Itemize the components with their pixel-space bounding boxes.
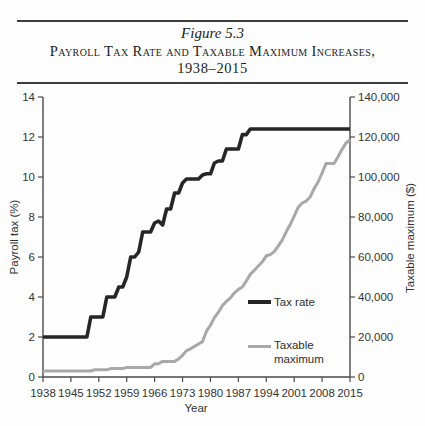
x-axis-tick-label: 1987	[226, 387, 252, 399]
left-axis-tick-label: 6	[29, 251, 35, 263]
x-axis-tick-label: 1938	[30, 387, 56, 399]
left-axis-tick-label: 12	[22, 131, 35, 143]
x-axis-tick-label: 1952	[86, 387, 112, 399]
tax-rate-line-swatch	[248, 300, 271, 304]
right-axis-tick-label: 100,000	[358, 171, 400, 183]
x-axis-tick-label: 1973	[170, 387, 196, 399]
series-line-taxable-maximum	[43, 140, 350, 371]
left-axis-tick-label: 8	[29, 211, 35, 223]
x-axis-tick-label: 1945	[58, 387, 84, 399]
x-axis-tick-label: 2008	[309, 387, 335, 399]
right-axis-tick-label: 60,000	[358, 251, 393, 263]
left-axis-tick-label: 0	[29, 371, 35, 383]
right-axis-title: Taxable maximum ($)	[404, 183, 416, 293]
left-axis-tick-label: 4	[29, 291, 36, 303]
x-axis-tick-label: 1966	[142, 387, 168, 399]
right-axis-tick-label: 120,000	[358, 131, 400, 143]
right-axis-tick-label: 40,000	[358, 291, 393, 303]
x-axis-tick-label: 2015	[337, 387, 363, 399]
taxable-maximum-line-swatch	[248, 345, 271, 348]
legend-item-tax-rate: Tax rate	[248, 296, 315, 308]
right-axis-tick-label: 0	[358, 371, 364, 383]
x-axis-tick-label: 1994	[253, 387, 279, 399]
x-axis-tick-label: 1959	[114, 387, 140, 399]
x-axis-title: Year	[184, 402, 207, 414]
x-axis-tick-label: 2001	[281, 387, 307, 399]
left-axis-tick-label: 10	[22, 171, 35, 183]
right-axis-tick-label: 20,000	[358, 331, 393, 343]
right-axis-tick-label: 140,000	[358, 91, 400, 103]
left-axis-title: Payroll tax (%)	[8, 200, 20, 275]
legend-label-tax-rate: Tax rate	[274, 296, 315, 308]
x-axis-tick-label: 1980	[198, 387, 224, 399]
left-axis-tick-label: 14	[22, 91, 35, 103]
left-axis-tick-label: 2	[29, 331, 35, 343]
legend-label-taxable-maximum: Taxable maximum	[274, 339, 338, 367]
figure-page: Figure 5.3 Payroll Tax Rate and Taxable …	[0, 0, 425, 426]
legend-item-taxable-maximum: Taxable maximum	[248, 339, 338, 367]
payroll-tax-chart: 02468101214020,00040,00060,00080,000100,…	[0, 0, 425, 426]
right-axis-tick-label: 80,000	[358, 211, 393, 223]
